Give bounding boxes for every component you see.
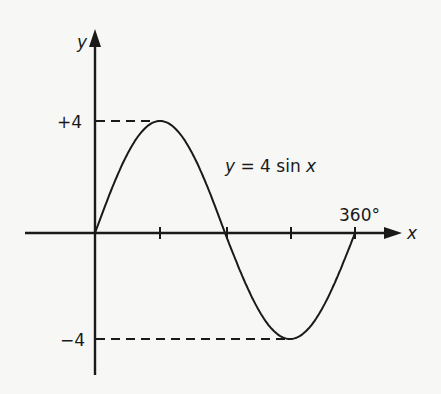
y-axis-label: y bbox=[76, 32, 88, 52]
eq-x: x bbox=[305, 156, 317, 176]
sine-curve bbox=[95, 121, 355, 339]
y-tick-label-plus4: +4 bbox=[57, 112, 82, 132]
sine-chart: y x +4 −4 360° y = 4 sin x bbox=[0, 0, 441, 394]
y-axis-arrow-icon bbox=[89, 29, 101, 47]
equation-label: y = 4 sin x bbox=[224, 156, 317, 176]
x-axis-arrow-icon bbox=[384, 227, 402, 239]
eq-rest: = 4 sin bbox=[235, 156, 306, 176]
x-tick-label-360: 360° bbox=[339, 205, 380, 225]
x-axis-label: x bbox=[406, 223, 418, 243]
y-tick-label-minus4: −4 bbox=[60, 330, 85, 350]
